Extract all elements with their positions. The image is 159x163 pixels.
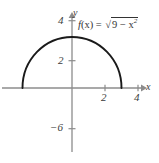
radicand: 9 − x2 bbox=[111, 17, 138, 30]
y-tick-label-2: 2 bbox=[58, 55, 64, 66]
figure-container: y x 4 2 −6 2 4 f(x) = √9 − x2 bbox=[0, 0, 159, 163]
x-axis-label: x bbox=[146, 82, 150, 92]
function-argument: (x) = bbox=[81, 19, 104, 30]
function-equation-label: f(x) = √9 − x2 bbox=[78, 17, 138, 30]
radicand-expression: 9 − x bbox=[112, 19, 134, 30]
x-tick-label-2: 2 bbox=[101, 92, 107, 103]
y-tick-label-minus-6: −6 bbox=[50, 122, 63, 133]
y-axis-label: y bbox=[73, 8, 77, 18]
x-tick-label-4: 4 bbox=[134, 92, 140, 103]
y-tick-label-4: 4 bbox=[58, 15, 64, 26]
radical-group: √9 − x2 bbox=[104, 17, 138, 30]
radicand-exponent: 2 bbox=[134, 17, 138, 25]
